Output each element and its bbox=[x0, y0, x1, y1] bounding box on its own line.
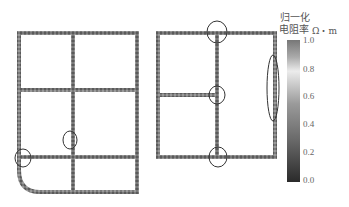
left-grid bbox=[19, 33, 137, 192]
colorbar-tick: 0.0 bbox=[303, 175, 314, 185]
right-grid bbox=[158, 33, 275, 157]
colorbar-tick: 0.4 bbox=[303, 119, 314, 129]
colorbar-tick: 1.0 bbox=[303, 35, 314, 45]
left-grid-outline bbox=[19, 33, 137, 192]
colorbar-tick: 0.8 bbox=[303, 64, 314, 74]
legend-title-line2: 电阻率 bbox=[279, 24, 309, 35]
colorbar bbox=[287, 40, 300, 182]
legend-title-line1: 归一化 bbox=[280, 12, 310, 23]
colorbar-tick: 0.2 bbox=[303, 147, 314, 157]
colorbar-tick: 0.6 bbox=[303, 91, 314, 101]
legend-unit: Ω・m bbox=[312, 26, 337, 37]
